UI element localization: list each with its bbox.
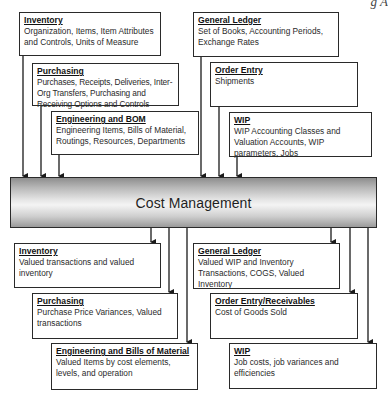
input-box-purchasing: Purchasing Purchases, Receipts, Deliveri…: [32, 63, 179, 106]
box-description: Valued Items by cost elements, levels, a…: [56, 357, 193, 379]
box-title: Order Entry/Receivables: [215, 296, 315, 307]
box-title: Purchasing: [37, 296, 84, 307]
box-title: Engineering and BOM: [56, 114, 146, 125]
box-description: Engineering Items, Bills of Material, Ro…: [56, 125, 194, 147]
box-description: Valued transactions and valued inventory: [19, 257, 156, 279]
box-description: Shipments: [215, 76, 353, 87]
box-title: General Ledger: [198, 15, 261, 26]
input-box-engineering-bom: Engineering and BOM Engineering Items, B…: [51, 111, 199, 155]
input-box-general-ledger: General Ledger Set of Books, Accounting …: [193, 12, 339, 57]
cost-management-label: Cost Management: [136, 195, 252, 211]
box-description: Purchases, Receipts, Deliveries, Inter-O…: [37, 77, 174, 110]
output-box-order-entry-receivables: Order Entry/Receivables Cost of Goods So…: [210, 293, 358, 339]
box-description: Set of Books, Accounting Periods, Exchan…: [198, 26, 334, 48]
box-description: Job costs, job variances and efficiencie…: [234, 357, 372, 379]
box-title: Inventory: [24, 15, 63, 26]
output-box-general-ledger: General Ledger Valued WIP and Inventory …: [193, 243, 340, 289]
output-box-purchasing: Purchasing Purchase Price Variances, Val…: [32, 293, 178, 339]
box-description: Valued WIP and Inventory Transactions, C…: [198, 257, 335, 290]
box-title: Order Entry: [215, 65, 263, 76]
box-title: Engineering and Bills of Material: [56, 346, 189, 357]
output-box-engineering-bills-of-material: Engineering and Bills of Material Valued…: [51, 343, 198, 390]
output-box-wip: WIP Job costs, job variances and efficie…: [229, 343, 377, 389]
box-description: Organization, Items, Item Attributes and…: [24, 26, 156, 48]
input-box-inventory: Inventory Organization, Items, Item Attr…: [19, 12, 161, 56]
box-description: WIP Accounting Classes and Valuation Acc…: [234, 126, 367, 159]
box-description: Purchase Price Variances, Valued transac…: [37, 307, 173, 329]
cost-management-box: Cost Management: [10, 177, 377, 228]
input-box-wip: WIP WIP Accounting Classes and Valuation…: [229, 112, 372, 157]
box-description: Cost of Goods Sold: [215, 307, 353, 318]
box-title: Purchasing: [37, 66, 84, 77]
box-title: Inventory: [19, 246, 58, 257]
box-title: General Ledger: [198, 246, 261, 257]
output-box-inventory: Inventory Valued transactions and valued…: [14, 243, 161, 288]
input-box-order-entry: Order Entry Shipments: [210, 62, 358, 107]
box-title: WIP: [234, 115, 250, 126]
box-title: WIP: [234, 346, 250, 357]
